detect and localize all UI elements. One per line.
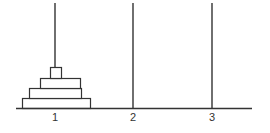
peg-label-1: 1: [52, 111, 58, 123]
disk-2: [41, 79, 81, 89]
peg-labels: 1 2 3: [52, 111, 215, 123]
peg-label-2: 2: [130, 111, 136, 123]
disk-1: [51, 68, 62, 79]
peg-label-3: 3: [209, 111, 215, 123]
disk-4: [23, 99, 91, 109]
disk-3: [30, 89, 82, 99]
tower-of-hanoi-diagram: 1 2 3: [0, 0, 270, 133]
disks: [23, 68, 91, 109]
